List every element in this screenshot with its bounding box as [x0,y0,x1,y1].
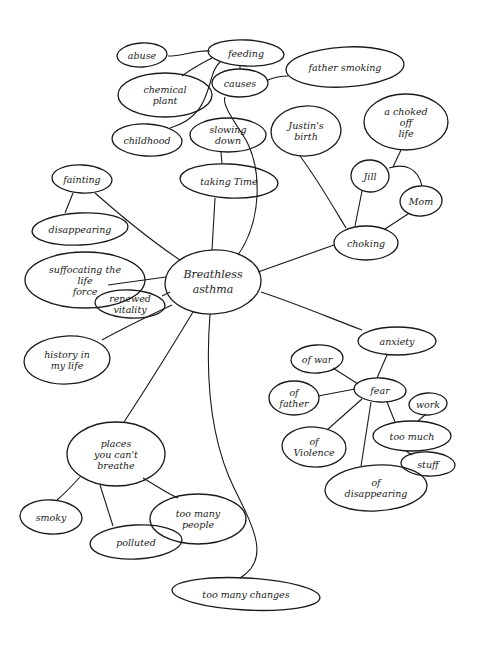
edge-fear-of_father [318,389,355,396]
mind-map-nodes: Breathlessasthmacausesfeedingabusechemic… [19,38,455,614]
node-renewed-vitality: renewedvitality [94,288,165,320]
node-label: force [72,286,98,297]
node-label: of [309,436,320,447]
node-label: Mom [408,196,433,207]
node-label: Jill [362,171,377,182]
node-label: fear [369,385,391,396]
edge-places-smoky [57,477,80,500]
edge-taking_time-slowing_down [221,152,222,164]
node-label: off [400,117,415,128]
node-too-many-changes: too many changes [171,574,320,614]
edge-fear-of_violence [327,399,362,430]
node-breathless: Breathlessasthma [163,248,262,317]
node-label: places [101,438,132,449]
node-label: of war [302,354,334,365]
edge-fear-too_much [387,402,395,422]
node-label: people [182,519,215,530]
node-label: plant [153,95,178,106]
node-of-father: offather [269,381,319,415]
edge-fear-of_war [333,368,358,384]
node-choked-off-life: a chokedofflife [364,94,448,150]
node-label: anxiety [380,336,416,347]
node-label: chemical [143,84,186,95]
node-label: father [278,398,310,409]
node-label: fainting [62,174,100,185]
node-taking-time: taking Time [179,161,279,200]
edge-choking-jill [355,191,362,226]
node-label: feeding [227,48,264,59]
edge-feeding-chemical_plant [182,58,212,76]
edge-places-polluted [100,485,113,526]
node-places: placesyou can'tbreathe [67,422,165,486]
mind-map-canvas: Breathlessasthmacausesfeedingabusechemic… [0,0,486,650]
node-label: choking [347,238,385,249]
node-justins-birth: Justin'sbirth [270,104,343,158]
node-bubble [163,248,262,317]
edge-feeding-abuse [168,51,210,56]
node-label: slowing [209,124,246,135]
node-label: too many [176,508,221,519]
node-label: renewed [109,293,151,304]
node-label: birth [294,131,318,142]
node-abuse: abuse [116,42,167,69]
node-history: history inmy life [23,334,111,386]
node-label: suffocating the [49,264,121,275]
node-label: work [416,399,440,410]
node-label: too many changes [202,589,289,600]
node-label: down [215,135,241,146]
node-chemical-plant: chemicalplant [118,73,212,117]
node-label: stuff [417,459,441,470]
edge-anxiety-fear [377,355,387,378]
node-label: father smoking [308,62,382,73]
node-label: of [289,387,300,398]
node-label: of [371,477,382,488]
node-fainting: fainting [51,163,112,194]
node-label: life [398,128,414,139]
node-label: disappearing [345,488,408,499]
node-label: Breathless [182,268,243,281]
edge-fear-of_disappearing [361,402,371,466]
node-mom: Mom [399,185,443,217]
node-label: a choked [384,106,427,117]
node-father-smoking: father smoking [285,44,405,90]
node-too-many-people: too manypeople [150,494,246,544]
edge-places-too_many_people [143,478,178,498]
node-polluted: polluted [89,523,183,562]
node-too-much: too much [373,421,451,451]
node-causes: causes [212,69,268,97]
edge-breathless-too_many_changes [208,314,257,578]
node-label: abuse [128,50,157,61]
edge-choking-justins_birth [300,156,346,228]
node-label: causes [224,78,257,89]
node-slowing-down: slowingdown [190,118,266,152]
node-stuff: stuff [400,451,455,478]
edge-causes-father_smoking [268,76,288,80]
edge-choking-mom [385,214,408,229]
node-jill: Jill [350,159,390,193]
node-label: breathe [97,460,135,471]
node-choking: choking [334,226,398,260]
node-label: vitality [113,304,147,315]
edge-breathless-choking [258,245,334,272]
node-label: life [77,275,93,286]
node-smoky: smoky [19,498,83,535]
node-label: Violence [293,447,335,458]
edge-breathless-anxiety [261,292,362,330]
node-label: too much [390,431,435,442]
edge-breathless-taking_time [212,198,215,250]
node-disappearing-left: disappearing [31,211,129,248]
node-label: my life [51,360,84,371]
node-label: asthma [193,283,234,296]
node-label: history in [44,349,90,360]
node-label: taking Time [200,176,258,187]
node-of-disappearing: ofdisappearing [324,462,428,513]
edge-fainting-disappearing_left [65,193,73,213]
node-work: work [408,392,447,416]
node-label: you can't [93,449,138,460]
edge-jill-choked_off_life [393,150,401,167]
edge-jill-mom [389,166,422,186]
node-of-violence: ofViolence [281,425,347,468]
node-anxiety: anxiety [358,327,436,355]
node-label: disappearing [49,224,112,235]
edge-breathless-suffocating [108,277,166,285]
